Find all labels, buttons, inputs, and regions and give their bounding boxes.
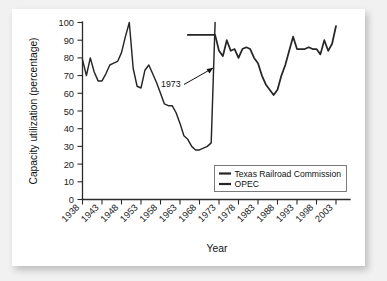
x-tick-label: 1978 [216, 202, 238, 224]
y-tick-label: 20 [64, 160, 74, 170]
y-tick-label: 70 [64, 71, 74, 81]
y-axis-title: Capacity utilization (percentage) [28, 37, 39, 184]
x-tick-label: 1993 [274, 202, 296, 224]
y-tick-label: 100 [58, 18, 74, 28]
x-tick-label: 1953 [118, 202, 140, 224]
series-texas-railroad-commission [83, 23, 216, 150]
x-tick-label: 1943 [79, 202, 101, 224]
y-tick-label: 40 [64, 124, 74, 134]
x-tick-label: 1973 [196, 202, 218, 224]
x-axis-title: Year [207, 243, 228, 254]
x-tick-label: 1988 [255, 202, 277, 224]
x-tick-label: 1998 [294, 202, 316, 224]
y-tick-label: 60 [64, 89, 74, 99]
figure-card: 100 90 80 70 60 50 40 30 20 10 0 Capacit… [12, 9, 365, 266]
y-axis-tick-labels: 100 90 80 70 60 50 40 30 20 10 0 [58, 18, 74, 205]
chart-legend: Texas Railroad Commission OPEC [215, 166, 347, 192]
x-tick-label: 1948 [99, 202, 121, 224]
y-tick-label: 50 [64, 107, 74, 117]
legend-label-opec: OPEC [235, 179, 259, 189]
series-opec [188, 26, 336, 95]
x-axis-tick-labels: 1938 1943 1948 1953 1958 1963 1968 1973 … [60, 202, 335, 224]
annotation-1973: 1973 [161, 68, 213, 89]
capacity-utilization-chart: 100 90 80 70 60 50 40 30 20 10 0 Capacit… [12, 9, 365, 266]
x-tick-label: 2003 [313, 202, 335, 224]
legend-label-texas-railroad-commission: Texas Railroad Commission [235, 169, 342, 179]
annotation-label: 1973 [161, 79, 181, 89]
page-root: 100 90 80 70 60 50 40 30 20 10 0 Capacit… [0, 0, 387, 281]
x-tick-label: 1938 [60, 202, 82, 224]
x-tick-label: 1958 [138, 202, 160, 224]
y-tick-label: 10 [64, 177, 74, 187]
x-tick-label: 1963 [157, 202, 179, 224]
y-tick-label: 90 [64, 36, 74, 46]
y-axis-ticks [78, 23, 83, 200]
y-tick-label: 80 [64, 53, 74, 63]
x-tick-label: 1968 [177, 202, 199, 224]
x-tick-label: 1983 [235, 202, 257, 224]
y-tick-label: 30 [64, 142, 74, 152]
